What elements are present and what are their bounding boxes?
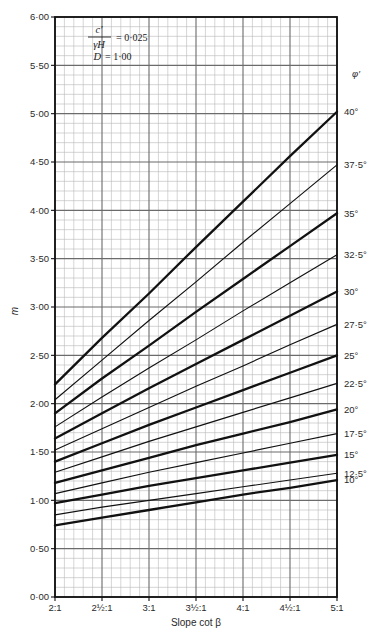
curve-label-40deg: 40°	[344, 106, 359, 117]
y-tick-label: 1·50	[30, 446, 49, 457]
chart-background	[0, 0, 386, 638]
y-tick-label: 2·50	[30, 350, 49, 361]
curve-label-35deg: 35°	[344, 208, 359, 219]
curve-label-20deg: 20°	[344, 404, 359, 415]
legend-title-phi: φ′	[352, 68, 361, 79]
y-axis-title: m	[9, 307, 20, 315]
curve-label-32-5deg: 32·5°	[344, 249, 367, 260]
curve-label-10deg: 10°	[344, 474, 359, 485]
x-tick-label: 3½:1	[185, 602, 206, 613]
curve-label-37-5deg: 37·5°	[344, 159, 367, 170]
chart-figure: 40°37·5°35°32·5°30°27·5°25°22·5°20°17·5°…	[0, 0, 386, 638]
x-axis-title: Slope cot β	[171, 617, 221, 628]
y-tick-label: 4·50	[30, 156, 49, 167]
x-tick-label: 2:1	[48, 602, 61, 613]
curve-label-30deg: 30°	[344, 286, 359, 297]
curve-label-25deg: 25°	[344, 350, 359, 361]
annotation-equation-2: = 1·00	[105, 51, 131, 62]
x-tick-label: 4:1	[236, 602, 249, 613]
x-tick-label: 4½:1	[279, 602, 300, 613]
y-tick-label: 4·00	[30, 205, 49, 216]
x-tick-label: 5:1	[330, 602, 343, 613]
slope-stability-chart: 40°37·5°35°32·5°30°27·5°25°22·5°20°17·5°…	[0, 0, 386, 638]
y-tick-label: 2·00	[30, 398, 49, 409]
y-tick-label: 1·00	[30, 495, 49, 506]
y-tick-label: 0·50	[30, 543, 49, 554]
y-tick-label: 3·00	[30, 301, 49, 312]
y-tick-label: 6·00	[30, 11, 49, 22]
curve-label-27-5deg: 27·5°	[344, 319, 367, 330]
y-tick-label: 0·00	[30, 591, 49, 602]
curve-label-17-5deg: 17·5°	[344, 428, 367, 439]
curve-label-15deg: 15°	[344, 449, 359, 460]
x-tick-label: 2½:1	[91, 602, 112, 613]
annotation-denominator: γH	[93, 39, 106, 50]
annotation-numerator: c′	[96, 24, 104, 35]
y-tick-label: 5·00	[30, 108, 49, 119]
y-tick-label: 5·50	[30, 60, 49, 71]
annotation-symbol-D: D	[92, 51, 101, 62]
x-tick-label: 3:1	[142, 602, 155, 613]
curve-label-22-5deg: 22·5°	[344, 378, 367, 389]
y-tick-label: 3·50	[30, 253, 49, 264]
annotation-equation-1: = 0·025	[116, 32, 147, 43]
